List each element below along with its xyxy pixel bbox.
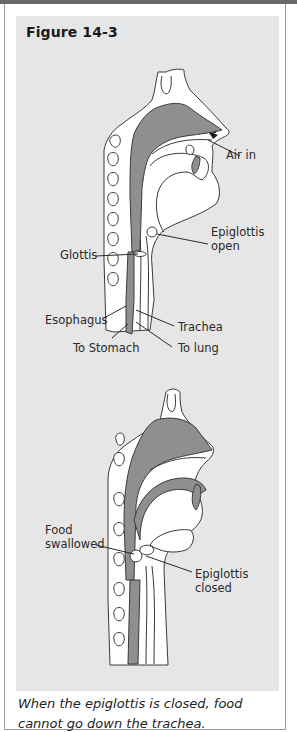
label-to-stomach: To Stomach — [73, 341, 139, 355]
label-food: Food — [45, 523, 73, 537]
label-air-in: Air in — [226, 148, 256, 162]
label-epiglottis-closed: Epiglottis — [195, 567, 249, 581]
label-epiglottis-open-state: open — [211, 239, 240, 253]
label-food-swallowed: swallowed — [45, 537, 105, 551]
label-esophagus: Esophagus — [45, 313, 108, 327]
bottom-diagram — [108, 389, 213, 665]
top-diagram — [104, 69, 229, 334]
label-to-lung: To lung — [178, 341, 219, 355]
figure-caption: When the epiglottis is closed, food cann… — [18, 694, 288, 732]
label-glottis: Glottis — [60, 248, 97, 262]
anatomy-diagrams — [0, 0, 297, 732]
label-epiglottis-closed-state: closed — [195, 581, 232, 595]
label-epiglottis-open: Epiglottis — [211, 225, 265, 239]
label-trachea: Trachea — [178, 320, 223, 334]
